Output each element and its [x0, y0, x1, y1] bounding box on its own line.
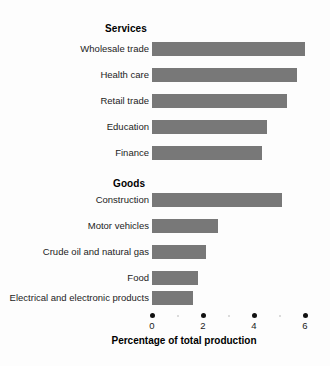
bar-chart: Services Wholesale trade Health care Ret…	[0, 0, 330, 366]
tick-dot-major	[303, 313, 308, 318]
bar-row: Crude oil and natural gas	[0, 245, 330, 259]
x-tick-label: 6	[295, 320, 315, 331]
x-axis-title-text: Percentage of total production	[73, 335, 256, 346]
bar-row: Construction	[0, 193, 330, 207]
bar-label: Retail trade	[100, 93, 149, 108]
tick-dot-minor	[177, 315, 179, 317]
bar-label: Construction	[96, 192, 149, 207]
group-header-services: Services	[105, 23, 147, 34]
bar-rect	[152, 193, 282, 207]
bar-label: Food	[127, 270, 149, 285]
bar-row: Motor vehicles	[0, 219, 330, 233]
x-axis-title: Percentage of total production	[0, 335, 330, 346]
bar-label: Electrical and electronic products	[10, 290, 149, 305]
bar-rect	[152, 291, 193, 305]
x-tick-label: 4	[244, 320, 264, 331]
bar-row: Education	[0, 120, 330, 134]
tick-dot-major	[150, 313, 155, 318]
x-axis: 0246 Percentage of total production	[0, 310, 330, 366]
x-tick-label: 0	[142, 320, 162, 331]
bar-row: Finance	[0, 146, 330, 160]
bar-rect	[152, 146, 262, 160]
bar-label: Education	[107, 119, 149, 134]
bar-rect	[152, 68, 297, 82]
bar-label: Finance	[115, 145, 149, 160]
bar-label: Wholesale trade	[80, 41, 149, 56]
bar-label: Motor vehicles	[88, 218, 149, 233]
bar-row: Retail trade	[0, 94, 330, 108]
bar-label: Health care	[100, 67, 149, 82]
bar-rect	[152, 245, 206, 259]
bar-rect	[152, 42, 305, 56]
bar-rect	[152, 94, 287, 108]
bar-row: Food	[0, 271, 330, 285]
tick-dot-minor	[228, 315, 230, 317]
x-tick-label: 2	[193, 320, 213, 331]
bar-row: Health care	[0, 68, 330, 82]
bar-rect	[152, 120, 267, 134]
bar-rect	[152, 219, 218, 233]
tick-dot-major	[201, 313, 206, 318]
bar-label: Crude oil and natural gas	[43, 244, 149, 259]
bar-row: Wholesale trade	[0, 42, 330, 56]
tick-dot-minor	[279, 315, 281, 317]
bar-row: Electrical and electronic products	[0, 291, 330, 305]
group-header-goods: Goods	[113, 178, 145, 189]
bar-rect	[152, 271, 198, 285]
tick-dot-major	[252, 313, 257, 318]
